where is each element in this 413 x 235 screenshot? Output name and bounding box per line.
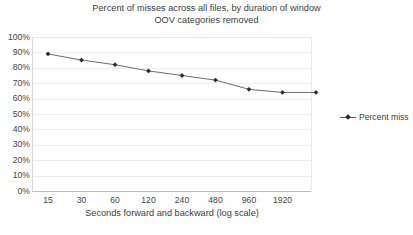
legend: Percent miss (340, 112, 409, 122)
data-point (213, 78, 218, 83)
legend-label-percent-miss: Percent miss (359, 112, 409, 122)
legend-marker-icon (340, 114, 356, 121)
series-markers-percent-miss (46, 52, 319, 95)
data-point (314, 90, 319, 95)
data-point (247, 87, 252, 92)
chart-container: Percent of misses across all files, by d… (0, 0, 413, 235)
data-point (280, 90, 285, 95)
data-point (79, 58, 84, 63)
data-point (146, 68, 151, 73)
data-point (180, 73, 185, 78)
data-point (113, 62, 118, 67)
data-point (46, 52, 51, 57)
